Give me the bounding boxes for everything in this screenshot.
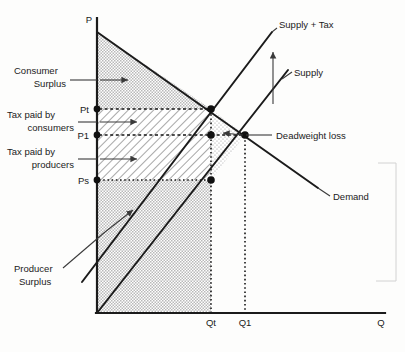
dot-qt-supply bbox=[207, 131, 215, 139]
supply-plus-tax-label-leader bbox=[272, 28, 277, 32]
dot-qt-ps bbox=[207, 176, 215, 184]
tax-incidence-diagram: P Q Pt P1 Ps Qt Q1 Consumer Surplus Tax … bbox=[0, 0, 405, 352]
dot-p1-axis bbox=[94, 132, 101, 139]
producer-surplus-label-line1: Producer bbox=[14, 263, 53, 274]
demand-label-leader bbox=[318, 188, 330, 196]
deadweight-loss-region bbox=[211, 109, 245, 180]
consumer-surplus-label-line1: Consumer bbox=[14, 65, 58, 76]
consumer-surplus-label-line2: Surplus bbox=[34, 78, 66, 89]
dot-pt-axis bbox=[94, 106, 101, 113]
tax-producers-label-line1: Tax paid by bbox=[7, 146, 55, 157]
tax-paid-by-producers-region bbox=[97, 135, 211, 180]
diagram-canvas: P Q Pt P1 Ps Qt Q1 Consumer Surplus Tax … bbox=[0, 0, 405, 352]
tax-consumers-label-line1: Tax paid by bbox=[7, 109, 55, 120]
y-tick-label-ps: Ps bbox=[78, 175, 89, 186]
tax-producers-label-line2: producers bbox=[32, 159, 74, 170]
supply-plus-tax-label: Supply + Tax bbox=[279, 19, 334, 30]
dot-ps-axis bbox=[94, 177, 101, 184]
x-axis-label: Q bbox=[377, 317, 384, 328]
y-axis-label: P bbox=[86, 14, 92, 25]
producer-surplus-label-line2: Surplus bbox=[19, 276, 51, 287]
y-tick-label-pt: Pt bbox=[80, 104, 89, 115]
x-tick-label-q1: Q1 bbox=[239, 317, 252, 328]
x-tick-label-qt: Qt bbox=[206, 317, 216, 328]
supply-label: Supply bbox=[294, 67, 323, 78]
tax-consumers-label-line2: consumers bbox=[28, 122, 75, 133]
deadweight-loss-label: Deadweight loss bbox=[276, 130, 346, 141]
demand-label: Demand bbox=[333, 191, 369, 202]
y-tick-label-p1: P1 bbox=[77, 130, 89, 141]
dot-tax-equilibrium bbox=[207, 105, 215, 113]
page-edge-artifact bbox=[376, 163, 396, 281]
